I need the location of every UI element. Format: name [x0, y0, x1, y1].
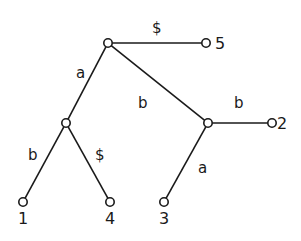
leaf-node-2 — [268, 119, 276, 127]
edge-root-nb — [111, 46, 204, 121]
suffix-tree-diagram: $abbb$a 52143 — [0, 0, 301, 241]
edges-group — [25, 43, 268, 198]
internal-node-na — [62, 119, 70, 127]
edge-root-na — [68, 47, 106, 120]
edge-label: b — [28, 146, 38, 164]
leaf-node-5 — [202, 39, 210, 47]
node-labels-group: 52143 — [18, 34, 287, 228]
edge-label: $ — [152, 19, 162, 37]
edge-label: a — [198, 159, 207, 177]
leaf-node-3 — [160, 198, 168, 206]
edge-label: $ — [95, 146, 105, 164]
internal-node-root — [104, 39, 112, 47]
leaf-label: 5 — [215, 34, 225, 53]
leaf-label: 1 — [18, 209, 28, 228]
edge-label: b — [138, 94, 148, 112]
edge-label: b — [234, 94, 244, 112]
leaf-node-4 — [106, 198, 114, 206]
internal-node-nb — [204, 119, 212, 127]
leaf-label: 2 — [277, 114, 287, 133]
edge-label: a — [76, 64, 85, 82]
leaf-label: 4 — [105, 209, 115, 228]
leaf-label: 3 — [159, 209, 169, 228]
leaf-node-1 — [19, 198, 27, 206]
